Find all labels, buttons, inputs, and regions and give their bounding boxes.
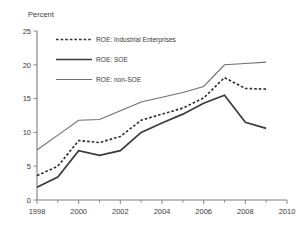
legend-label-industrial-enterprises: ROE: Industrial Enterprises: [96, 36, 177, 44]
y-tick-label: 0: [27, 196, 31, 205]
y-tick-label: 20: [23, 61, 31, 70]
x-tick-label: 2006: [195, 207, 212, 216]
y-tick-label: 10: [23, 128, 31, 137]
y-tick-label: 5: [27, 162, 31, 171]
x-axis-ticks: [37, 200, 287, 204]
x-tick-label: 2010: [279, 207, 296, 216]
legend-label-soe: ROE: SOE: [96, 56, 128, 63]
x-tick-label: 2002: [112, 207, 129, 216]
y-axis-tick-labels: 0510152025: [23, 27, 31, 205]
x-tick-label: 2004: [154, 207, 171, 216]
chart-canvas: Percent 0510152025 199820002002200420062…: [0, 0, 304, 236]
x-tick-label: 2008: [237, 207, 254, 216]
legend: ROE: Industrial Enterprises ROE: SOE ROE…: [56, 36, 177, 83]
roe-line-chart: Percent 0510152025 199820002002200420062…: [0, 0, 304, 236]
series-line-soe: [37, 95, 266, 187]
y-tick-label: 25: [23, 27, 31, 36]
x-axis-tick-labels: 1998200020022004200620082010: [29, 207, 296, 216]
y-axis-title: Percent: [28, 10, 55, 19]
y-tick-label: 15: [23, 94, 31, 103]
x-tick-label: 1998: [29, 207, 46, 216]
x-tick-label: 2000: [70, 207, 87, 216]
legend-label-non-soe: ROE: non-SOE: [96, 76, 142, 83]
